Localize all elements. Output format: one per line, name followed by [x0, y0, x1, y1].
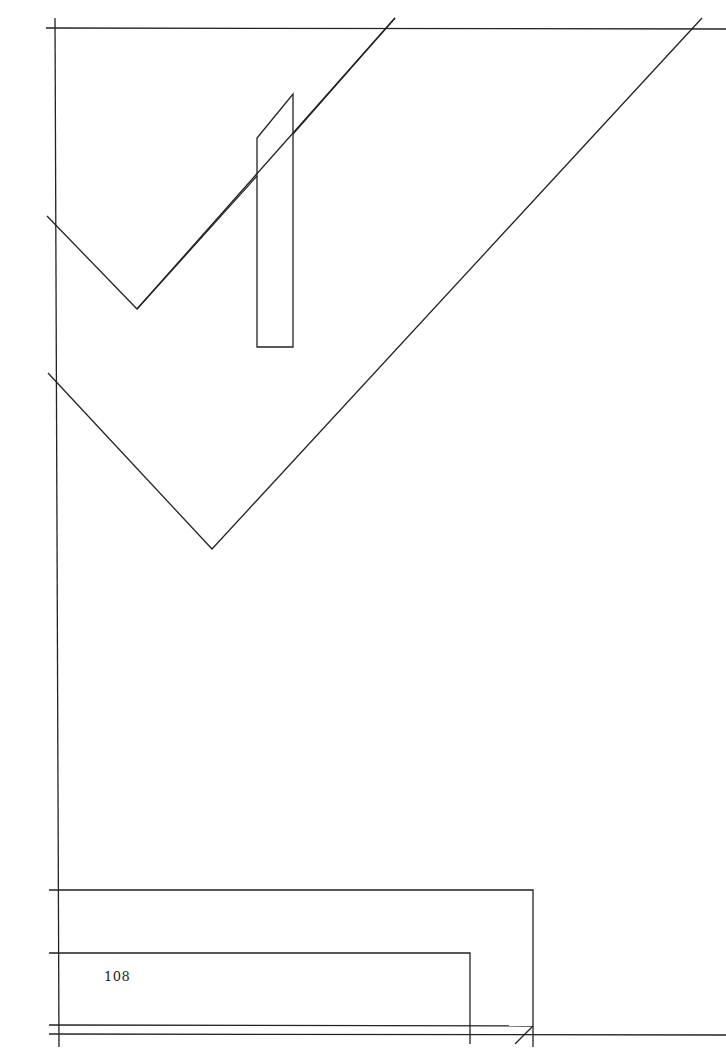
inner-bottom-rect [49, 953, 470, 1044]
page-number: 108 [104, 969, 130, 984]
slanted-bar [257, 94, 293, 347]
bottom-line-1 [49, 1025, 533, 1026]
left-frame-line [55, 18, 59, 1047]
small-chevron [47, 18, 395, 309]
document-page: 108 [0, 0, 726, 1059]
line-art-drawing [0, 0, 726, 1059]
large-chevron [48, 18, 702, 549]
bottom-line-2 [49, 1034, 726, 1035]
